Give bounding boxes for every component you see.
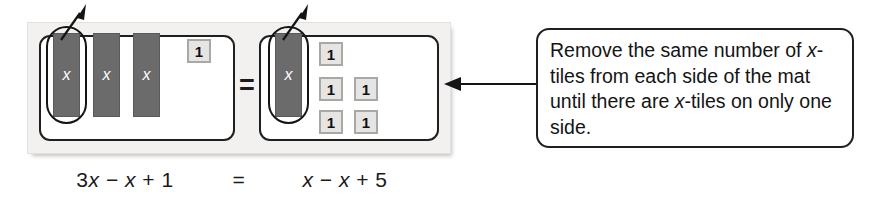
remove-arrow-left-icon bbox=[53, 0, 99, 46]
equation-right-side: x − x + 5 bbox=[255, 168, 435, 192]
unit-tile[interactable]: 1 bbox=[354, 77, 378, 101]
equation-left-side: 3x − x + 1 bbox=[27, 168, 223, 192]
x-tile[interactable]: x bbox=[133, 33, 160, 117]
unit-tile[interactable]: 1 bbox=[319, 42, 343, 66]
unit-tile[interactable]: 1 bbox=[319, 77, 343, 101]
unit-tile[interactable]: 1 bbox=[354, 110, 378, 134]
remove-arrow-right-icon bbox=[275, 0, 321, 46]
callout-pointer-arrow-icon bbox=[444, 72, 540, 96]
unit-tile[interactable]: 1 bbox=[187, 39, 211, 63]
algebra-tile-mat: x x x 1 = x 1 1 1 1 1 bbox=[27, 22, 451, 154]
equation-equals-sign: = bbox=[223, 168, 255, 192]
unit-tile[interactable]: 1 bbox=[319, 110, 343, 134]
mat-equals-sign: = bbox=[234, 72, 260, 99]
instruction-callout: Remove the same number of x-tiles from e… bbox=[536, 28, 854, 148]
equation-row: 3x − x + 1 = x − x + 5 bbox=[27, 163, 451, 197]
instruction-callout-text: Remove the same number of x-tiles from e… bbox=[550, 38, 842, 140]
